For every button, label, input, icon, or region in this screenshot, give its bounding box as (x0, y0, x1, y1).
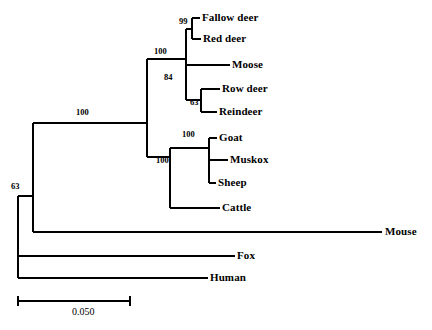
taxon-label-fox: Fox (237, 250, 255, 261)
scale-bar-group (18, 296, 130, 306)
taxon-label-reindeer: Reindeer (219, 106, 263, 117)
phylogenetic-tree-figure: Fallow deerRed deerMooseRow deerReindeer… (0, 0, 432, 330)
taxon-label-moose: Moose (232, 59, 263, 70)
bootstrap-value-goat-muskox-sheep: 100 (182, 130, 195, 139)
taxon-label-human: Human (210, 272, 246, 283)
bootstrap-value-cervidae: 100 (154, 47, 167, 56)
taxon-label-row-deer: Row deer (222, 83, 268, 94)
scale-bar-label: 0.050 (72, 306, 95, 317)
taxon-label-muskox: Muskox (230, 154, 269, 165)
bootstrap-value-ruminantia: 100 (76, 108, 89, 117)
bootstrap-value-moose-roe-reindeer: 84 (164, 73, 173, 82)
taxon-label-red-deer: Red deer (203, 33, 246, 44)
taxon-label-mouse: Mouse (385, 226, 417, 237)
bootstrap-value-root-clade: 63 (11, 182, 20, 191)
bootstrap-value-fallow-red-deer: 99 (179, 17, 188, 26)
bootstrap-value-bovidae: 100 (156, 156, 169, 165)
taxon-label-sheep: Sheep (218, 177, 247, 188)
taxon-label-cattle: Cattle (222, 202, 251, 213)
branch-group (18, 18, 382, 278)
taxon-label-goat: Goat (219, 132, 243, 143)
taxon-label-fallow-deer: Fallow deer (202, 12, 258, 23)
bootstrap-value-roe-reindeer: 63 (190, 98, 199, 107)
